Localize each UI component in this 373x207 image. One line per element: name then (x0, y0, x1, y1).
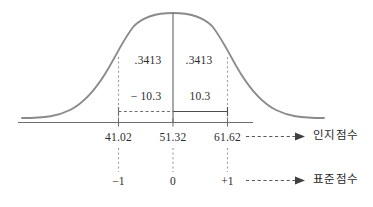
z-axis-tick-label-1: −1 (112, 176, 125, 188)
normal-distribution-figure: .3413 .3413 − 10.3 10.3 41.02 51.32 61.6… (0, 0, 373, 207)
z-axis-arrowhead (295, 177, 305, 185)
z-axis-tick-label-3: +1 (221, 176, 234, 188)
deviation-label-right: 10.3 (190, 91, 211, 103)
area-label-right: .3413 (186, 55, 213, 67)
area-label-left: .3413 (135, 55, 162, 67)
raw-axis-tick-label-3: 61.62 (214, 132, 241, 144)
standard-score-axis-label: 표준점수 (313, 174, 359, 186)
z-axis-tick-label-2: 0 (170, 176, 176, 188)
raw-axis-arrowhead (295, 133, 305, 141)
raw-score-axis-label: 인지점수 (313, 130, 359, 142)
raw-axis-tick-label-2: 51.32 (160, 132, 187, 144)
raw-axis-tick-label-1: 41.02 (105, 132, 132, 144)
deviation-label-left: − 10.3 (131, 91, 162, 103)
